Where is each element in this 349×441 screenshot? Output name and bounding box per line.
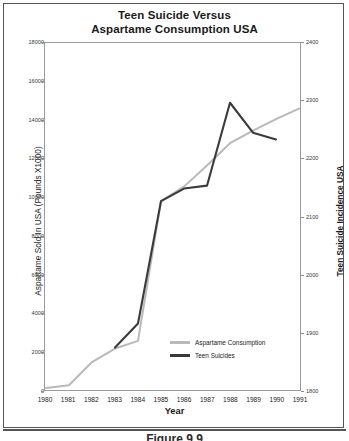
y-tick-label-left: 2000: [8, 349, 44, 355]
series-line-teen-suicides: [115, 103, 276, 348]
x-tick-label: 1985: [148, 396, 174, 403]
y-tick-label-left: 8000: [8, 233, 44, 239]
x-tick-label: 1987: [194, 396, 220, 403]
chart-title: Teen Suicide Versus Aspartame Consumptio…: [4, 8, 345, 36]
x-tick-label: 1982: [78, 396, 104, 403]
x-tick-label: 1988: [217, 396, 243, 403]
x-tick-label: 1980: [32, 396, 58, 403]
x-tick-label: 1991: [287, 396, 313, 403]
legend-item-aspartame-consumption: Aspartame Consumption: [170, 336, 265, 349]
y-tick-label-left: 0: [8, 388, 44, 394]
y-tick-mark-right: [301, 391, 304, 392]
y-tick-label-left: 14000: [8, 117, 44, 123]
y-tick-label-left: 6000: [8, 272, 44, 278]
y-tick-label-left: 18000: [8, 39, 44, 45]
y-tick-label-right: 2400: [306, 39, 340, 45]
x-tick-label: 1989: [241, 396, 267, 403]
x-tick-label: 1983: [102, 396, 128, 403]
y-tick-mark-right: [301, 275, 304, 276]
figure-frame: Teen Suicide Versus Aspartame Consumptio…: [3, 3, 344, 428]
caption-divider: [3, 429, 346, 431]
y-tick-label-left: 4000: [8, 310, 44, 316]
y-tick-mark-right: [301, 217, 304, 218]
x-tick-label: 1986: [171, 396, 197, 403]
legend-swatch-icon: [170, 341, 190, 344]
y-tick-label-right: 1800: [306, 388, 340, 394]
y-tick-mark-right: [301, 158, 304, 159]
figure-caption: Figure 9.9: [0, 432, 349, 441]
y-tick-mark-left: [41, 391, 44, 392]
legend-item-teen-suicides: Teen Suicides: [170, 349, 265, 362]
chart-title-line-2: Aspartame Consumption USA: [4, 22, 345, 36]
legend-swatch-icon: [170, 354, 190, 357]
y-tick-label-right: 2200: [306, 155, 340, 161]
y-tick-label-left: 10000: [8, 194, 44, 200]
x-axis-label: Year: [4, 406, 345, 416]
y-tick-label-left: 12000: [8, 155, 44, 161]
y-tick-label-left: 16000: [8, 78, 44, 84]
chart-title-line-1: Teen Suicide Versus: [4, 8, 345, 22]
chart-legend: Aspartame Consumption Teen Suicides: [170, 336, 265, 362]
y-tick-label-right: 2100: [306, 214, 340, 220]
x-tick-label: 1981: [55, 396, 81, 403]
legend-label: Aspartame Consumption: [195, 339, 265, 346]
y-tick-mark-right: [301, 100, 304, 101]
y-tick-mark-right: [301, 42, 304, 43]
x-tick-label: 1990: [264, 396, 290, 403]
y-tick-label-right: 1900: [306, 330, 340, 336]
x-tick-label: 1984: [125, 396, 151, 403]
legend-label: Teen Suicides: [195, 352, 235, 359]
y-tick-label-right: 2000: [306, 272, 340, 278]
y-tick-mark-right: [301, 333, 304, 334]
y-tick-label-right: 2300: [306, 97, 340, 103]
